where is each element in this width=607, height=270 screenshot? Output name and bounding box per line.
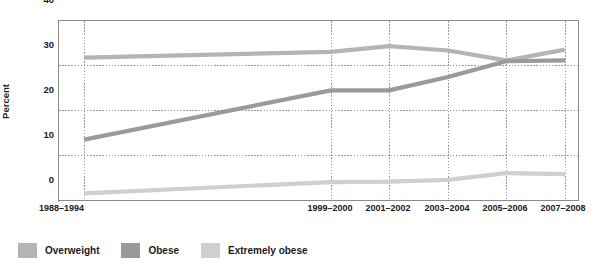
x-tick-2007-2008: 2007–2008 xyxy=(540,203,585,213)
plot-svg xyxy=(59,21,578,200)
legend-label-overweight: Overweight xyxy=(45,245,99,256)
y-tick-30: 30 xyxy=(20,39,54,50)
x-tick-1988-1994: 1988–1994 xyxy=(39,203,84,213)
y-axis-title: Percent xyxy=(0,84,11,119)
chart-legend: Overweight Obese Extremely obese xyxy=(18,243,330,258)
x-tick-2001-2002: 2001–2002 xyxy=(365,203,410,213)
y-tick-10: 10 xyxy=(20,129,54,140)
legend-item-overweight: Overweight xyxy=(18,243,99,258)
y-axis-tick-labels: 40 30 20 10 0 xyxy=(14,0,54,181)
x-tick-2005-2006: 2005–2006 xyxy=(482,203,527,213)
x-tick-2003-2004: 2003–2004 xyxy=(424,203,469,213)
legend-label-obese: Obese xyxy=(148,245,179,256)
plot-area xyxy=(58,20,579,201)
chart-container: Percent 40 30 20 10 0 1988–1994 1999–200… xyxy=(0,0,607,270)
legend-item-extremely-obese: Extremely obese xyxy=(201,243,308,258)
legend-swatch-extremely-obese xyxy=(201,243,220,258)
y-tick-0: 0 xyxy=(20,174,54,185)
y-tick-20: 20 xyxy=(20,84,54,95)
y-tick-40: 40 xyxy=(20,0,54,5)
x-tick-1999-2000: 1999–2000 xyxy=(307,203,352,213)
legend-swatch-obese xyxy=(121,243,140,258)
legend-label-extremely-obese: Extremely obese xyxy=(228,245,308,256)
legend-swatch-overweight xyxy=(18,243,37,258)
legend-item-obese: Obese xyxy=(121,243,179,258)
